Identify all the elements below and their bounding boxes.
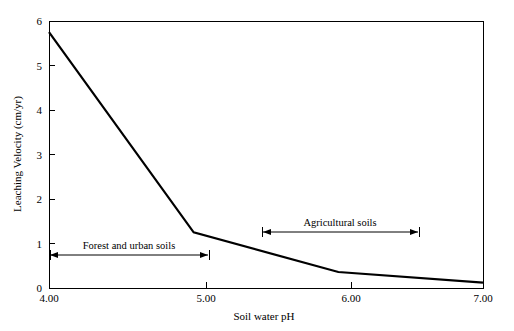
x-tick-label-6: 6.00 <box>341 292 361 304</box>
y-tick-label-4: 4 <box>37 104 43 116</box>
forest-arrowhead-left-icon <box>50 252 58 258</box>
agricultural-annotation-label: Agricultural soils <box>303 217 376 228</box>
y-tick-label-5: 5 <box>37 60 43 72</box>
y-axis-tick-labels: 6 5 4 3 2 1 0 <box>37 15 43 294</box>
x-axis-tick-labels: 4.00 5.00 6.00 7.00 <box>39 292 493 304</box>
x-tick-label-5: 5.00 <box>196 292 216 304</box>
forest-annotation-label: Forest and urban soils <box>83 240 175 251</box>
x-tick-label-4: 4.00 <box>39 292 59 304</box>
annotation-forest-and-urban-soils: Forest and urban soils <box>50 240 209 260</box>
y-tick-label-2: 2 <box>37 193 43 205</box>
chart-figure: 6 5 4 3 2 1 0 4.00 5.00 6.00 7.00 Soil w… <box>0 0 514 331</box>
x-axis-ticks <box>49 282 483 288</box>
y-axis-title: Leaching Velocity (cm/yr) <box>11 96 24 212</box>
leaching-velocity-line-chart: 6 5 4 3 2 1 0 4.00 5.00 6.00 7.00 Soil w… <box>0 0 514 331</box>
annotation-agricultural-soils: Agricultural soils <box>262 217 419 237</box>
x-axis-title: Soil water pH <box>233 310 294 322</box>
agricultural-arrowhead-right-icon <box>410 229 418 235</box>
y-axis-ticks <box>49 21 55 288</box>
agricultural-arrowhead-left-icon <box>263 229 271 235</box>
y-tick-label-6: 6 <box>37 15 43 27</box>
x-tick-label-7: 7.00 <box>473 292 493 304</box>
y-tick-label-3: 3 <box>37 149 43 161</box>
forest-arrowhead-right-icon <box>200 252 208 258</box>
y-tick-label-1: 1 <box>37 238 43 250</box>
